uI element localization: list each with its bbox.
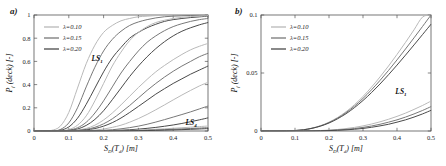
legend-label: λ=0.15 bbox=[289, 34, 309, 41]
x-tick-label: 0.1 bbox=[291, 134, 299, 141]
legend-label: λ=0.10 bbox=[289, 23, 309, 30]
x-tick-label: 0.3 bbox=[134, 134, 142, 141]
panel-a: a) 00.10.20.30.40.500.20.40.60.81SD(Td) … bbox=[0, 0, 223, 166]
x-tick-label: 0.3 bbox=[359, 134, 367, 141]
legend-label: λ=0.20 bbox=[62, 45, 82, 52]
y-tick-label: 0.05 bbox=[246, 69, 257, 76]
y-tick-label: 0.4 bbox=[22, 81, 31, 88]
x-tick-label: 0.4 bbox=[169, 134, 178, 141]
panel-b: b) 00.10.20.30.40.500.050.1SD(Td) [m]Pf … bbox=[223, 0, 446, 166]
x-tick-label: 0.1 bbox=[65, 134, 73, 141]
x-axis-title: SD(Td) [m] bbox=[329, 144, 363, 154]
y-tick-label: 0 bbox=[254, 127, 257, 134]
y-tick-label: 0.8 bbox=[22, 35, 30, 42]
x-axis-title: SD(Td) [m] bbox=[104, 144, 138, 154]
y-axis-title: Pf (deck) [-] bbox=[230, 53, 240, 93]
y-tick-label: 0.2 bbox=[22, 104, 30, 111]
x-tick-label: 0.4 bbox=[393, 134, 402, 141]
legend-label: λ=0.15 bbox=[62, 34, 82, 41]
y-tick-label: 0.6 bbox=[22, 58, 31, 65]
x-tick-label: 0.2 bbox=[100, 134, 108, 141]
x-tick-label: 0 bbox=[259, 134, 262, 141]
x-tick-label: 0.2 bbox=[325, 134, 333, 141]
panel-a-plot: 00.10.20.30.40.500.20.40.60.81SD(Td) [m]… bbox=[0, 0, 223, 166]
y-tick-label: 0.1 bbox=[249, 11, 257, 18]
legend-label: λ=0.20 bbox=[289, 45, 309, 52]
x-tick-label: 0 bbox=[32, 134, 35, 141]
x-tick-label: 0.5 bbox=[427, 134, 435, 141]
panel-b-plot: 00.10.20.30.40.500.050.1SD(Td) [m]Pf (de… bbox=[223, 0, 446, 166]
legend-label: λ=0.10 bbox=[62, 23, 82, 30]
y-tick-label: 0 bbox=[27, 127, 30, 134]
figure-fragility-curves: a) 00.10.20.30.40.500.20.40.60.81SD(Td) … bbox=[0, 0, 446, 166]
y-axis-title: Pf (deck) [-] bbox=[5, 53, 15, 93]
x-tick-label: 0.5 bbox=[204, 134, 212, 141]
y-tick-label: 1 bbox=[27, 11, 30, 18]
